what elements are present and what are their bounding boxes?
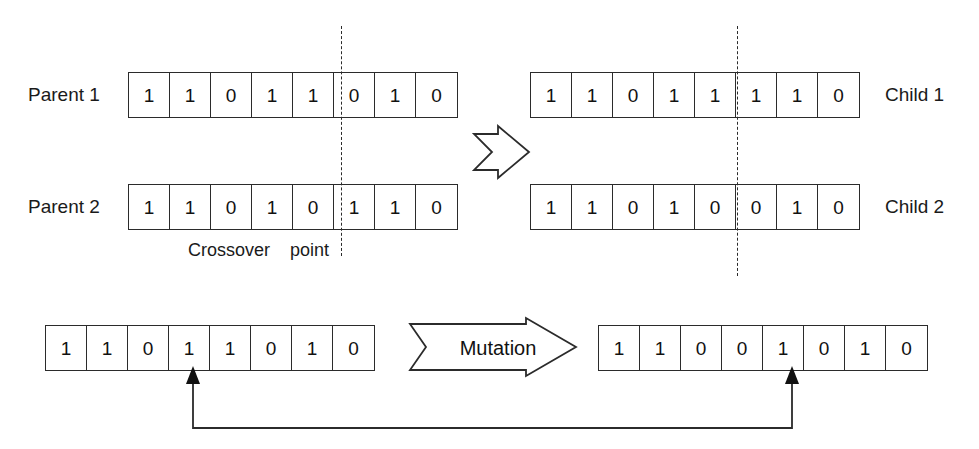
mutation-feedback-connector xyxy=(0,360,979,449)
parent-2-bit-0: 1 xyxy=(129,185,170,229)
child-1-bit-6: 1 xyxy=(777,73,818,117)
child-1-bit-7: 0 xyxy=(818,73,859,117)
chevron-right-arrow-icon xyxy=(472,124,532,180)
crossover-point-dashed-line-left xyxy=(341,26,342,256)
child-2-bit-6: 1 xyxy=(777,185,818,229)
child-1-bit-5: 1 xyxy=(736,73,777,117)
child-1-label: Child 1 xyxy=(885,84,944,106)
parent-1-bit-4: 1 xyxy=(293,73,334,117)
parent-2-bit-4: 0 xyxy=(293,185,334,229)
child-1-bit-3: 1 xyxy=(654,73,695,117)
parent-1-bit-2: 0 xyxy=(211,73,252,117)
diagram-canvas: Parent 1 11011010 Parent 2 11010110 Cros… xyxy=(0,0,979,449)
mutation-source-arrowhead-icon xyxy=(186,366,200,384)
parent-1-bit-6: 1 xyxy=(375,73,416,117)
parent-2-bit-7: 0 xyxy=(416,185,457,229)
child-2-bit-2: 0 xyxy=(613,185,654,229)
parent-1-chromosome: 11011010 xyxy=(128,72,458,118)
parent-2-bit-1: 1 xyxy=(170,185,211,229)
parent-2-bit-6: 1 xyxy=(375,185,416,229)
child-1-bit-1: 1 xyxy=(572,73,613,117)
child-1-bit-2: 0 xyxy=(613,73,654,117)
parent-2-bit-2: 0 xyxy=(211,185,252,229)
child-1-chromosome: 11011110 xyxy=(530,72,860,118)
crossover-point-dashed-line-right xyxy=(737,26,738,276)
mutation-operator-label: Mutation xyxy=(438,337,558,360)
child-2-bit-5: 0 xyxy=(736,185,777,229)
child-1-bit-0: 1 xyxy=(531,73,572,117)
parent-1-bit-7: 0 xyxy=(416,73,457,117)
mutation-target-arrowhead-icon xyxy=(785,366,799,384)
crossover-caption-left: Crossover xyxy=(188,240,270,261)
parent-1-bit-3: 1 xyxy=(252,73,293,117)
parent-2-bit-3: 1 xyxy=(252,185,293,229)
child-2-bit-4: 0 xyxy=(695,185,736,229)
crossover-point-caption: Crossoverpoint xyxy=(188,240,329,261)
parent-1-bit-0: 1 xyxy=(129,73,170,117)
child-2-chromosome: 11010010 xyxy=(530,184,860,230)
child-2-bit-0: 1 xyxy=(531,185,572,229)
child-2-label: Child 2 xyxy=(885,196,944,218)
child-2-bit-3: 1 xyxy=(654,185,695,229)
parent-2-label: Parent 2 xyxy=(28,196,100,218)
child-1-bit-4: 1 xyxy=(695,73,736,117)
child-2-bit-1: 1 xyxy=(572,185,613,229)
parent-1-label: Parent 1 xyxy=(28,84,100,106)
parent-1-bit-1: 1 xyxy=(170,73,211,117)
crossover-caption-right: point xyxy=(290,240,329,261)
parent-2-chromosome: 11010110 xyxy=(128,184,458,230)
child-2-bit-7: 0 xyxy=(818,185,859,229)
